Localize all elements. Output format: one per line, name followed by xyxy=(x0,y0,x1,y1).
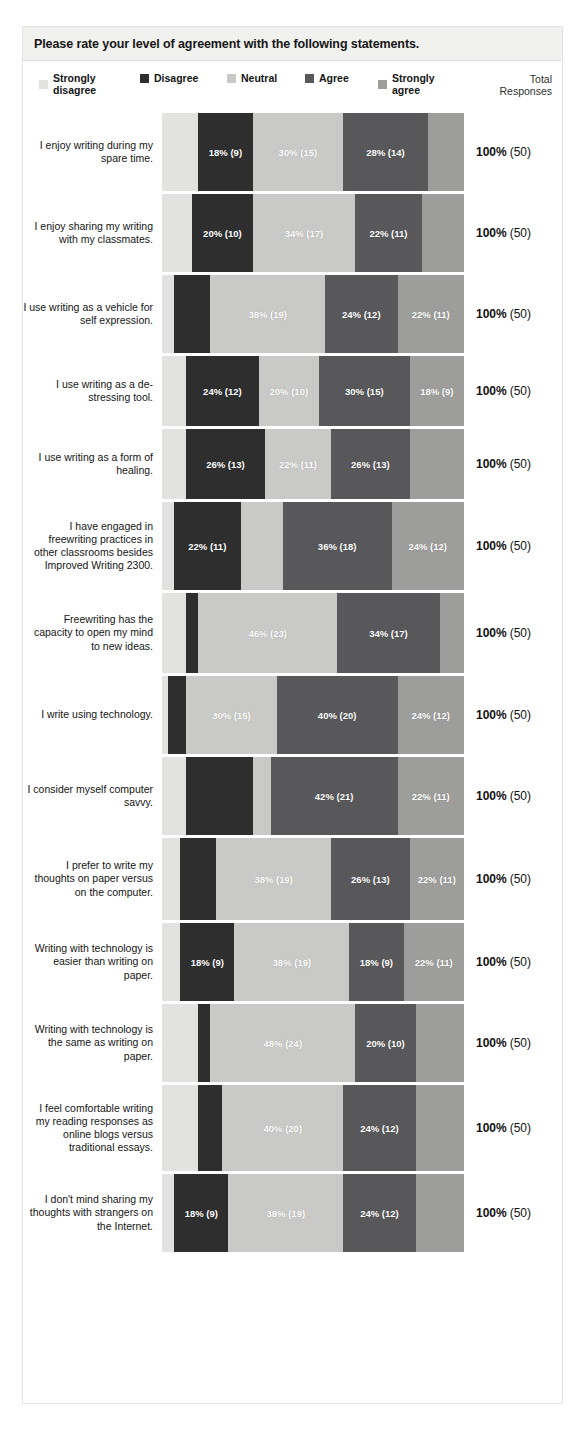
chart-row: I have engaged in freewriting practices … xyxy=(23,502,562,590)
stacked-bar: 38% (19)26% (13)22% (11) xyxy=(162,838,464,920)
bar-segment-value: 24% (12) xyxy=(342,309,381,320)
row-total-percent: 100% xyxy=(476,1121,507,1135)
chart-row: I use writing as a de-stressing tool.24%… xyxy=(23,356,562,426)
bar-segment-strongly_agree xyxy=(416,1174,464,1252)
page-title: Please rate your level of agreement with… xyxy=(23,37,419,51)
bar-segment-disagree: 26% (13) xyxy=(186,429,265,499)
bar-segment-value: 38% (19) xyxy=(267,1208,306,1219)
row-total-percent: 100% xyxy=(476,145,507,159)
row-total-percent: 100% xyxy=(476,789,507,803)
bar-segment-value: 18% (9) xyxy=(209,147,242,158)
bar-segment-value: 18% (9) xyxy=(185,1208,218,1219)
row-total-count: (50) xyxy=(510,384,531,398)
bar-segment-value: 26% (13) xyxy=(351,874,390,885)
bar-segment-agree: 30% (15) xyxy=(319,356,410,426)
bar-segment-strongly_disagree xyxy=(162,757,186,835)
chart-row: I use writing as a vehicle for self expr… xyxy=(23,275,562,353)
legend-swatch-icon-agree xyxy=(305,74,314,83)
bar-segment-value: 22% (11) xyxy=(279,459,317,470)
bar-segment-neutral: 30% (15) xyxy=(253,113,344,191)
bar-segment-value: 30% (15) xyxy=(345,386,384,397)
chart-row: I enjoy sharing my writing with my class… xyxy=(23,194,562,272)
legend-label-agree: Agree xyxy=(319,73,349,85)
bar-segment-value: 20% (10) xyxy=(203,228,242,239)
legend-label-disagree: Disagree xyxy=(154,73,198,85)
legend-item-neutral: Neutral xyxy=(227,73,277,85)
bar-segment-agree: 18% (9) xyxy=(349,923,403,1001)
chart-title-band: Please rate your level of agreement with… xyxy=(23,27,562,61)
bar-segment-neutral: 38% (19) xyxy=(234,923,349,1001)
bar-segment-value: 26% (13) xyxy=(206,459,245,470)
bar-segment-value: 48% (24) xyxy=(264,1038,303,1049)
row-total-responses: 100%(50) xyxy=(464,113,562,191)
bar-segment-value: 42% (21) xyxy=(315,791,354,802)
legend-item-disagree: Disagree xyxy=(140,73,198,85)
bar-segment-disagree xyxy=(168,676,186,754)
row-label: I enjoy writing during my spare time. xyxy=(23,113,162,191)
bar-segment-strongly_agree: 22% (11) xyxy=(410,838,464,920)
bar-segment-value: 24% (12) xyxy=(408,541,447,552)
stacked-bar: 46% (23)34% (17) xyxy=(162,593,464,673)
legend-swatch-icon-strongly_disagree xyxy=(39,80,48,89)
bar-segment-neutral: 40% (20) xyxy=(222,1085,343,1171)
row-total-responses: 100%(50) xyxy=(464,838,562,920)
chart-row: Writing with technology is easier than w… xyxy=(23,923,562,1001)
bar-segment-agree: 28% (14) xyxy=(343,113,428,191)
legend-item-strongly_agree: Strongly agree xyxy=(378,73,435,96)
bar-segment-disagree xyxy=(174,275,210,353)
chart-row: I don't mind sharing my thoughts with st… xyxy=(23,1174,562,1252)
bar-segment-value: 22% (11) xyxy=(369,228,407,239)
bar-segment-agree: 24% (12) xyxy=(343,1174,415,1252)
row-total-responses: 100%(50) xyxy=(464,1174,562,1252)
bar-segment-disagree xyxy=(186,757,252,835)
bar-segment-agree: 24% (12) xyxy=(343,1085,415,1171)
bar-segment-value: 46% (23) xyxy=(248,628,287,639)
bar-segment-value: 24% (12) xyxy=(360,1123,399,1134)
bar-segment-value: 40% (20) xyxy=(318,710,357,721)
legend-label-neutral: Neutral xyxy=(241,73,277,85)
row-total-responses: 100%(50) xyxy=(464,757,562,835)
row-total-percent: 100% xyxy=(476,457,507,471)
row-total-count: (50) xyxy=(510,1121,531,1135)
row-total-percent: 100% xyxy=(476,1206,507,1220)
row-total-responses: 100%(50) xyxy=(464,429,562,499)
row-total-count: (50) xyxy=(510,145,531,159)
row-label: Writing with technology is easier than w… xyxy=(23,923,162,1001)
chart-rows: I enjoy writing during my spare time.18%… xyxy=(23,113,562,1255)
bar-segment-agree: 40% (20) xyxy=(277,676,398,754)
bar-segment-disagree: 18% (9) xyxy=(198,113,252,191)
bar-segment-agree: 26% (13) xyxy=(331,429,410,499)
bar-segment-value: 18% (9) xyxy=(191,957,224,968)
row-total-count: (50) xyxy=(510,626,531,640)
legend-label-strongly_agree: Strongly agree xyxy=(392,73,435,96)
row-total-count: (50) xyxy=(510,872,531,886)
bar-segment-value: 40% (20) xyxy=(264,1123,303,1134)
bar-segment-value: 18% (9) xyxy=(360,957,393,968)
bar-segment-strongly_agree: 22% (11) xyxy=(398,757,464,835)
bar-segment-agree: 34% (17) xyxy=(337,593,440,673)
row-total-count: (50) xyxy=(510,539,531,553)
bar-segment-neutral: 20% (10) xyxy=(259,356,319,426)
row-total-percent: 100% xyxy=(476,384,507,398)
row-label: I enjoy sharing my writing with my class… xyxy=(23,194,162,272)
legend-label-strongly_disagree: Strongly disagree xyxy=(53,73,96,96)
stacked-bar: 42% (21)22% (11) xyxy=(162,757,464,835)
bar-segment-neutral: 46% (23) xyxy=(198,593,337,673)
bar-segment-disagree xyxy=(186,593,198,673)
bar-segment-value: 38% (19) xyxy=(254,874,293,885)
bar-segment-value: 18% (9) xyxy=(420,386,453,397)
bar-segment-value: 38% (19) xyxy=(273,957,312,968)
total-responses-header-line2: Responses xyxy=(499,85,552,97)
chart-row: I prefer to write my thoughts on paper v… xyxy=(23,838,562,920)
bar-segment-strongly_agree xyxy=(428,113,464,191)
chart-row: I use writing as a form of healing.26% (… xyxy=(23,429,562,499)
bar-segment-value: 22% (11) xyxy=(415,957,453,968)
row-total-responses: 100%(50) xyxy=(464,194,562,272)
survey-chart-page: Please rate your level of agreement with… xyxy=(0,0,585,1445)
bar-segment-neutral: 30% (15) xyxy=(186,676,277,754)
bar-segment-strongly_disagree xyxy=(162,923,180,1001)
bar-segment-neutral: 38% (19) xyxy=(228,1174,343,1252)
bar-segment-neutral: 38% (19) xyxy=(216,838,331,920)
row-total-count: (50) xyxy=(510,307,531,321)
row-total-responses: 100%(50) xyxy=(464,356,562,426)
